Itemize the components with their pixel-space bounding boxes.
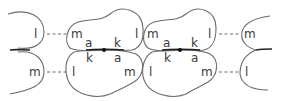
blob-a-bottom-contact-right: a [114, 51, 121, 65]
left-partial-top-shape [8, 12, 44, 48]
left-top-label: l [34, 27, 37, 41]
right-bottom-label: l [245, 65, 248, 79]
blob-a-top-right-label: l [135, 27, 138, 41]
blob-a-bottom-right-label: m [124, 65, 136, 79]
right-top-label: m [244, 27, 256, 41]
blob-b-contact-dot [178, 48, 182, 52]
right-partial-contact [256, 49, 272, 50]
blob-b-bottom-contact-right: a [191, 51, 198, 65]
blob-b-top-contact-left: a [163, 36, 170, 50]
blob-a-top-left-label: m [71, 27, 83, 41]
blob-a-top-contact-right: k [114, 36, 121, 50]
blob-a-bottom-left-label: l [72, 65, 75, 79]
diagram-canvas: l m m l a k k a l m m l a k k a l m [0, 0, 285, 101]
blob-a-bottom-contact-left: k [86, 51, 93, 65]
blob-b-top-contact-right: k [191, 36, 198, 50]
blob-b-bottom-left-label: l [149, 65, 152, 79]
blob-b-bottom-right-label: m [201, 65, 213, 79]
blob-b-top-right-label: l [208, 27, 211, 41]
blob-b-top-left-label: m [147, 27, 159, 41]
blob-a-contact-dot [102, 48, 106, 52]
blob-b-bottom-contact-left: k [164, 51, 171, 65]
left-bottom-label: m [29, 65, 41, 79]
blob-a-top-contact-left: a [85, 36, 92, 50]
diagram-svg: l m m l a k k a l m m l a k k a l m [0, 0, 285, 101]
